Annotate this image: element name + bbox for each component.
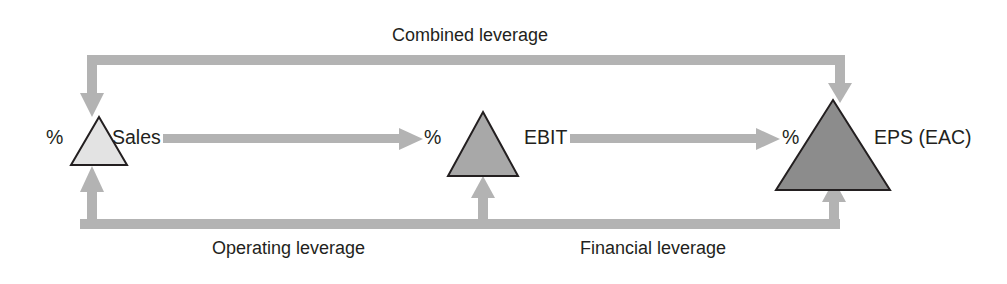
ebit-to-eps-shaft (570, 134, 756, 143)
bottom-horizontal-span (80, 219, 840, 229)
connector-label-financial-leverage: Financial leverage (580, 239, 726, 257)
node-label-eps: EPS (EAC) (874, 128, 972, 148)
percent-symbol-eps: % (782, 128, 799, 148)
leverage-diagram: Combined leverage Operating leverage Fin… (0, 0, 1007, 284)
sales-to-ebit-shaft (163, 134, 399, 143)
connector-ebit-to-eps (570, 128, 780, 150)
node-label-ebit: EBIT (524, 128, 567, 148)
connector-sales-to-ebit (163, 128, 423, 150)
sales-to-ebit-arrowhead-icon (399, 128, 423, 150)
operating-leverage-right-arrowhead-icon (471, 176, 495, 198)
operating-leverage-left-arrowhead-icon (80, 166, 104, 192)
node-triangle-ebit[interactable] (448, 112, 518, 176)
node-label-sales: Sales (112, 128, 161, 148)
combined-leverage-left-stem (87, 55, 97, 95)
connector-label-combined-leverage: Combined leverage (392, 26, 548, 44)
percent-symbol-ebit: % (424, 128, 441, 148)
connector-combined-leverage (80, 55, 852, 117)
combined-leverage-horizontal-span (87, 55, 845, 65)
percent-symbol-sales: % (46, 128, 63, 148)
combined-leverage-right-stem (835, 55, 845, 85)
combined-leverage-left-arrowhead-icon (80, 93, 104, 117)
ebit-to-eps-arrowhead-icon (756, 128, 780, 150)
combined-leverage-right-arrowhead-icon (828, 83, 852, 103)
connector-label-operating-leverage: Operating leverage (212, 239, 365, 257)
